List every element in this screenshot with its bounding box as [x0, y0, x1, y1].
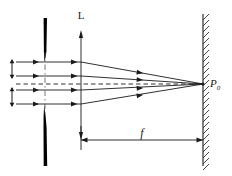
lens-label: L — [78, 9, 85, 21]
ray-diagram-canvas: L P0 — [0, 0, 232, 176]
optics-diagram: L P0 — [0, 0, 232, 176]
focus-point-subscript: 0 — [217, 84, 221, 92]
